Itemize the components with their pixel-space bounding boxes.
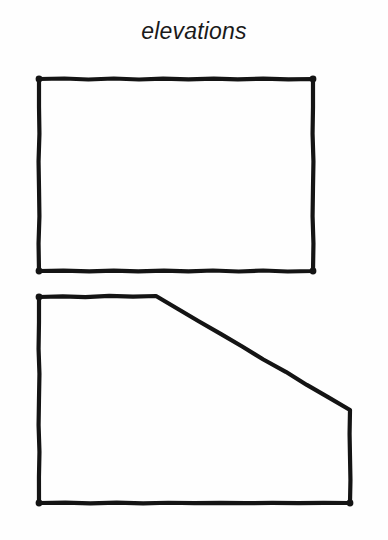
corner-marker-icon (310, 76, 317, 83)
corner-marker-icon (36, 500, 43, 507)
corner-marker-icon (36, 268, 43, 275)
corner-marker-icon (347, 500, 354, 507)
elevation-drawing-canvas (0, 0, 388, 540)
side-elevation-pentagon (39, 296, 351, 503)
front-elevation-corner-markers (36, 76, 317, 275)
drawing-sheet: elevations (0, 0, 388, 540)
corner-marker-icon (36, 294, 43, 301)
side-elevation-corner-markers (36, 294, 354, 507)
side-elevation-figure (36, 294, 354, 507)
corner-marker-icon (36, 76, 43, 83)
front-elevation-rectangle (39, 79, 314, 272)
corner-marker-icon (310, 268, 317, 275)
front-elevation-figure (36, 76, 317, 275)
